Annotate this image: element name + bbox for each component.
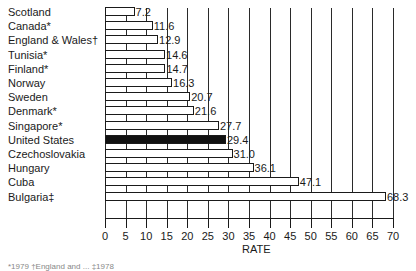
value-label: 68.3 — [387, 191, 408, 203]
value-label: 20.7 — [191, 91, 212, 103]
category-label: Cuba — [8, 176, 34, 188]
x-tick — [187, 218, 188, 228]
x-tick — [126, 218, 127, 228]
x-tick-label: 25 — [198, 230, 218, 242]
x-tick-label: 50 — [301, 230, 321, 242]
x-tick — [105, 218, 106, 228]
x-tick-label: 45 — [280, 230, 300, 242]
value-label: 21.6 — [195, 105, 216, 117]
bar — [105, 192, 386, 201]
gridline — [372, 8, 373, 218]
x-tick-label: 10 — [136, 230, 156, 242]
bar — [105, 106, 194, 115]
value-label: 11.6 — [154, 20, 175, 32]
x-tick — [393, 218, 394, 228]
x-tick — [352, 218, 353, 228]
bar — [105, 163, 254, 172]
bar — [105, 21, 153, 30]
value-label: 14.7 — [166, 63, 187, 75]
category-label: Norway — [8, 77, 45, 89]
x-tick-label: 40 — [260, 230, 280, 242]
bar — [105, 121, 219, 130]
value-label: 36.1 — [255, 162, 276, 174]
value-label: 7.2 — [136, 6, 151, 18]
category-label: United States — [8, 134, 74, 146]
value-label: 14.6 — [166, 49, 187, 61]
gridline — [270, 8, 271, 218]
x-tick-label: 65 — [362, 230, 382, 242]
x-tick-label: 30 — [218, 230, 238, 242]
category-label: Finland* — [8, 63, 48, 75]
x-tick — [290, 218, 291, 228]
value-label: 27.7 — [220, 120, 241, 132]
x-tick — [208, 218, 209, 228]
x-tick-label: 15 — [157, 230, 177, 242]
bar — [105, 7, 135, 16]
gridline — [290, 8, 291, 218]
x-tick-label: 55 — [321, 230, 341, 242]
category-label: Bulgaria‡ — [8, 191, 54, 203]
gridline — [228, 8, 229, 218]
category-label: Singapore* — [8, 120, 62, 132]
x-axis-title: RATE — [242, 243, 271, 255]
x-tick-label: 70 — [383, 230, 403, 242]
gridline — [352, 8, 353, 218]
value-label: 29.4 — [227, 134, 248, 146]
x-tick — [167, 218, 168, 228]
x-tick-label: 20 — [177, 230, 197, 242]
bar — [105, 35, 158, 44]
category-label: Tunisia* — [8, 49, 47, 61]
gridline — [393, 8, 394, 218]
category-label: Canada* — [8, 20, 51, 32]
bar — [105, 135, 226, 144]
value-label: 12.9 — [159, 34, 180, 46]
x-tick-label: 60 — [342, 230, 362, 242]
category-label: England & Wales† — [8, 34, 98, 46]
x-tick — [146, 218, 147, 228]
x-tick-label: 5 — [116, 230, 136, 242]
value-label: 16.3 — [173, 77, 194, 89]
gridline — [331, 8, 332, 218]
x-tick — [372, 218, 373, 228]
bar — [105, 50, 165, 59]
x-tick — [228, 218, 229, 228]
bar — [105, 78, 172, 87]
bar — [105, 149, 233, 158]
x-tick — [331, 218, 332, 228]
category-label: Hungary — [8, 162, 50, 174]
x-tick-label: 35 — [239, 230, 259, 242]
footnote: *1979 †England and ... ‡1978 — [8, 262, 114, 271]
category-label: Denmark* — [8, 105, 57, 117]
gridline — [249, 8, 250, 218]
value-label: 31.0 — [234, 148, 255, 160]
category-label: Czechoslovakia — [8, 148, 85, 160]
bar — [105, 177, 299, 186]
bar — [105, 64, 165, 73]
value-label: 47.1 — [300, 176, 321, 188]
category-label: Sweden — [8, 91, 48, 103]
x-tick — [270, 218, 271, 228]
category-label: Scotland — [8, 6, 51, 18]
x-tick — [311, 218, 312, 228]
x-tick-label: 0 — [95, 230, 115, 242]
x-tick — [249, 218, 250, 228]
bar — [105, 92, 190, 101]
